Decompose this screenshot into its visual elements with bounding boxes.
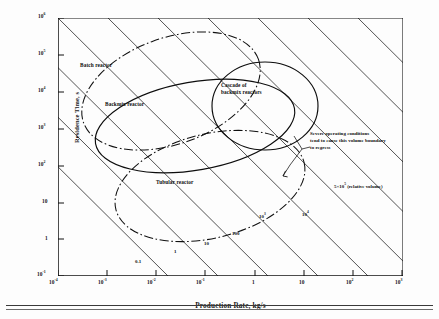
- x-tick-label-1e-4: 10-4: [49, 280, 58, 285]
- y-tick-label-1e4: 104: [38, 88, 45, 93]
- annotation-arrow: [283, 136, 310, 177]
- region-label-backmix-reactor: Backmix reactor: [105, 101, 144, 108]
- region-cascade-backmix-reactors: [212, 62, 318, 150]
- annotation-line-3: to regress: [310, 145, 331, 150]
- x-tick-label-1e3: 103: [395, 280, 402, 285]
- annotation-line-2: tend to cause this volume boundary: [310, 138, 386, 143]
- annotation-severe-operating-conditions: Severe operating conditions tend to caus…: [310, 130, 434, 151]
- volume-label-1: 1: [174, 250, 176, 255]
- x-tick-label-1e2: 102: [346, 280, 353, 285]
- y-tick-label-10: 10: [42, 199, 47, 204]
- volume-label-1e3: 103: [259, 214, 266, 220]
- cascade-line-1: Cascade of: [221, 82, 247, 88]
- footer-rule-top: [6, 305, 433, 306]
- volume-label-1e4: 104: [302, 212, 309, 218]
- footer-rule-bottom: [6, 309, 433, 310]
- volume-label-0-1: 0.1: [135, 260, 141, 265]
- y-tick-label-1e-1: 10-1: [37, 272, 46, 277]
- region-label-cascade-backmix-reactors: Cascade of backmix reactors: [221, 82, 262, 95]
- x-tick-label-10: 10: [299, 280, 304, 285]
- y-axis-ticks: [58, 18, 64, 276]
- volume-label-100: 100: [232, 232, 239, 237]
- region-label-batch-reactor: Batch reactor: [80, 62, 112, 69]
- y-tick-label-1e6: 106: [38, 14, 45, 19]
- x-tick-label-1: 1: [252, 280, 255, 285]
- region-tubular-reactor: [103, 112, 316, 260]
- y-tick-label-1e3: 103: [38, 125, 45, 130]
- region-label-tubular-reactor: Tubular reactor: [156, 179, 193, 186]
- y-tick-label-1: 1: [45, 236, 48, 241]
- figure-root: 106 105 104 103 102 10 1 10-1 10-4 10-3 …: [0, 0, 439, 319]
- region-backmix-reactor: [88, 65, 302, 187]
- cascade-line-2: backmix reactors: [221, 89, 262, 95]
- volume-label-5e5: 5×105 (relative volume): [334, 184, 383, 190]
- y-tick-label-1e2: 102: [38, 162, 45, 167]
- y-axis-title: Residence Time, s: [73, 58, 80, 178]
- x-tick-label-1e-1: 10-1: [196, 280, 205, 285]
- x-axis-ticks: [58, 270, 402, 276]
- volume-label-10: 10: [204, 242, 209, 247]
- x-tick-label-1e-2: 10-2: [147, 280, 156, 285]
- y-tick-label-1e5: 105: [38, 51, 45, 56]
- annotation-line-1: Severe operating conditions: [310, 131, 369, 136]
- x-tick-label-1e-3: 10-3: [98, 280, 107, 285]
